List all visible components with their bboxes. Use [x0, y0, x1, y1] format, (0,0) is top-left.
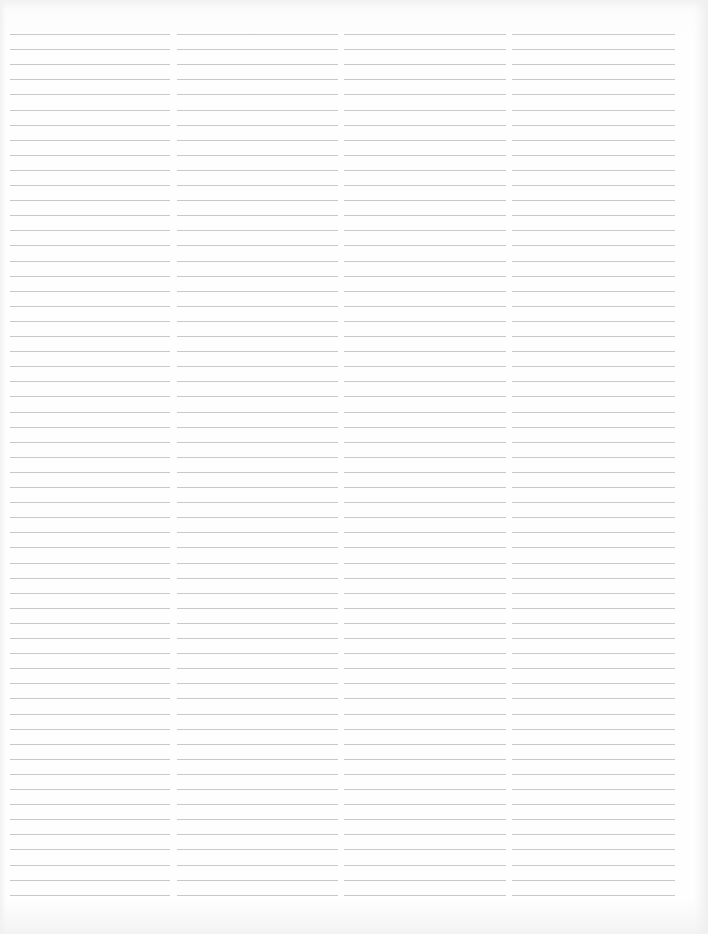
ruled-line	[344, 276, 506, 277]
ruled-line	[512, 759, 675, 760]
ruled-line	[10, 502, 170, 503]
ruled-line	[10, 321, 170, 322]
ruled-line	[10, 517, 170, 518]
ruled-line	[344, 774, 506, 775]
ruled-line	[344, 125, 506, 126]
ruled-line	[512, 849, 675, 850]
ruled-line	[344, 351, 506, 352]
ruled-line	[177, 140, 338, 141]
ruled-line	[177, 291, 338, 292]
ruled-line	[344, 140, 506, 141]
ruled-line	[512, 396, 675, 397]
ruled-line	[10, 547, 170, 548]
ruled-line	[10, 714, 170, 715]
ruled-line	[177, 547, 338, 548]
ruled-line	[10, 729, 170, 730]
ruled-line	[344, 789, 506, 790]
ruled-line	[512, 563, 675, 564]
ruled-line	[177, 64, 338, 65]
ruled-line	[512, 291, 675, 292]
ruled-line	[177, 125, 338, 126]
ruled-line	[344, 200, 506, 201]
ruled-line	[10, 215, 170, 216]
ruled-line	[10, 638, 170, 639]
ruled-line	[10, 336, 170, 337]
ruled-line	[512, 457, 675, 458]
ruled-line	[177, 185, 338, 186]
ruled-line	[177, 472, 338, 473]
ruled-line	[177, 155, 338, 156]
ruled-line	[10, 276, 170, 277]
ruled-line	[344, 472, 506, 473]
ruled-line	[177, 396, 338, 397]
ruled-line	[344, 849, 506, 850]
ruled-line	[10, 291, 170, 292]
ruled-line	[512, 94, 675, 95]
ruled-line	[177, 774, 338, 775]
ruled-line	[10, 34, 170, 35]
ruled-line	[177, 34, 338, 35]
ruled-line	[10, 895, 170, 896]
page-left-edge-shadow	[0, 0, 6, 934]
ruled-line	[512, 261, 675, 262]
ruled-line	[344, 110, 506, 111]
ruled-line	[344, 245, 506, 246]
ruled-line	[512, 276, 675, 277]
ruled-line	[177, 683, 338, 684]
ruled-line	[177, 442, 338, 443]
ruled-line	[512, 381, 675, 382]
ruled-line	[10, 79, 170, 80]
ruled-line	[344, 517, 506, 518]
ruled-line	[177, 245, 338, 246]
ruled-line	[512, 185, 675, 186]
ruled-line	[344, 744, 506, 745]
ruled-line	[177, 517, 338, 518]
ruled-line	[512, 502, 675, 503]
ruled-line	[177, 321, 338, 322]
ruled-line	[344, 381, 506, 382]
ruled-line	[177, 834, 338, 835]
ruled-column-1	[10, 0, 170, 934]
ruled-line	[10, 653, 170, 654]
ruled-line	[512, 819, 675, 820]
ruled-line	[10, 351, 170, 352]
ruled-line	[177, 593, 338, 594]
ruled-line	[10, 64, 170, 65]
ruled-line	[177, 457, 338, 458]
ruled-line	[177, 532, 338, 533]
ruled-line	[10, 185, 170, 186]
ruled-line	[512, 155, 675, 156]
ruled-line	[344, 336, 506, 337]
ruled-line	[512, 774, 675, 775]
ruled-line	[177, 79, 338, 80]
ruled-line	[344, 895, 506, 896]
ruled-line	[177, 759, 338, 760]
ruled-line	[512, 140, 675, 141]
ruled-line	[177, 261, 338, 262]
ruled-line	[344, 230, 506, 231]
ruled-line	[512, 895, 675, 896]
ruled-line	[344, 653, 506, 654]
ruled-line	[344, 49, 506, 50]
ruled-line	[512, 412, 675, 413]
ruled-line	[512, 865, 675, 866]
ruled-line	[10, 563, 170, 564]
ruled-line	[177, 351, 338, 352]
ruled-line	[512, 804, 675, 805]
ruled-line	[344, 865, 506, 866]
ruled-line	[10, 306, 170, 307]
ruled-line	[177, 623, 338, 624]
ruled-line	[10, 381, 170, 382]
ruled-line	[10, 744, 170, 745]
ruled-line	[10, 593, 170, 594]
ruled-line	[344, 593, 506, 594]
ruled-line	[344, 366, 506, 367]
ruled-line	[512, 487, 675, 488]
ruled-line	[512, 532, 675, 533]
ruled-line	[512, 336, 675, 337]
ruled-line	[10, 261, 170, 262]
ruled-line	[344, 79, 506, 80]
ruled-line	[344, 306, 506, 307]
ruled-line	[10, 230, 170, 231]
ruled-line	[177, 427, 338, 428]
